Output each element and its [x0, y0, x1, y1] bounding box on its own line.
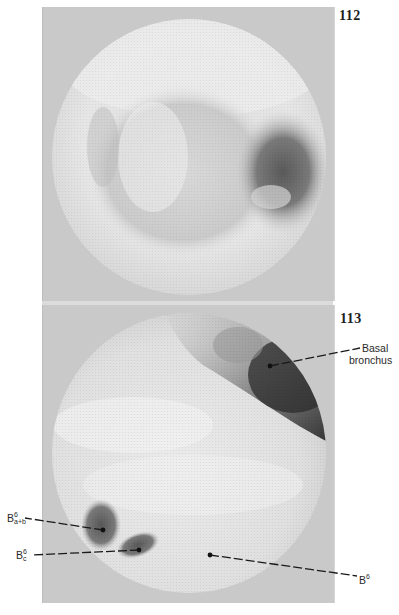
label-b6-ab: B6a+b: [7, 512, 26, 526]
label-b6-ab-base: B: [7, 512, 14, 524]
label-b6-c: B6c: [16, 549, 27, 563]
label-basal-bronchus-line2: bronchus: [349, 354, 392, 366]
figure-number-113: 113: [340, 311, 362, 327]
label-b6-c-base: B: [16, 549, 23, 561]
label-basal-line1: Basal: [362, 342, 388, 354]
endoscopic-view-112: [43, 7, 334, 301]
figure-number-112: 112: [339, 8, 361, 24]
label-b6-c-sub: c: [23, 555, 27, 562]
endoscopy-image-112: [42, 7, 335, 301]
label-basal-line2: bronchus: [349, 354, 392, 366]
label-b6-c-sup: 6: [23, 548, 27, 555]
label-b6-ab-sub: a+b: [14, 518, 26, 525]
endoscopic-view-113: [43, 305, 334, 603]
endoscopy-image-113: [42, 305, 335, 603]
label-b6-base: B: [359, 574, 366, 586]
label-b6-sup: 6: [366, 573, 370, 580]
label-b6: B6: [359, 571, 370, 586]
label-b6-ab-sup: 6: [14, 511, 26, 518]
label-basal-bronchus: Basal: [362, 342, 388, 354]
